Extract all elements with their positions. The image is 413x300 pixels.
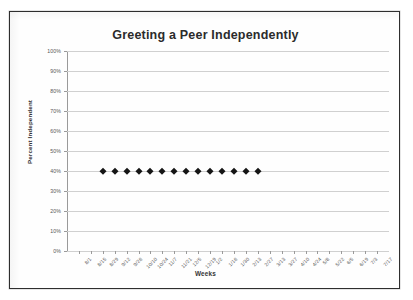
chart-title: Greeting a Peer Independently xyxy=(10,28,401,42)
x-tick-label: 8/15 xyxy=(96,256,107,267)
y-tick-mark xyxy=(64,71,67,72)
x-tick-mark xyxy=(294,251,295,254)
x-tick-mark xyxy=(234,251,235,254)
x-tick-label: 4/24 xyxy=(310,256,321,267)
x-tick-mark xyxy=(162,251,163,254)
x-tick-mark xyxy=(210,251,211,254)
x-tick-mark xyxy=(306,251,307,254)
y-tick-label: 100% xyxy=(47,48,61,54)
x-tick-mark xyxy=(198,251,199,254)
x-tick-label: 1/2 xyxy=(214,256,223,265)
gridline xyxy=(67,111,389,112)
x-tick-mark xyxy=(115,251,116,254)
y-tick-mark xyxy=(64,131,67,132)
y-axis-title: Percent Independent xyxy=(26,100,33,164)
y-tick-label: 40% xyxy=(50,168,61,174)
y-tick-mark xyxy=(64,111,67,112)
x-tick-mark xyxy=(103,251,104,254)
y-tick-mark xyxy=(64,251,67,252)
x-tick-label: 1/16 xyxy=(227,256,238,267)
plot-area: 0%10%20%30%40%50%60%70%80%90%100% 8/18/1… xyxy=(67,51,389,251)
y-tick-label: 50% xyxy=(50,148,61,154)
x-tick-label: 2/27 xyxy=(263,256,274,267)
gridline xyxy=(67,51,389,52)
x-tick-label: 6/19 xyxy=(358,256,369,267)
x-tick-mark xyxy=(365,251,366,254)
gridline xyxy=(67,91,389,92)
y-tick-mark xyxy=(64,171,67,172)
y-tick-label: 80% xyxy=(50,88,61,94)
data-point-marker xyxy=(195,168,201,174)
y-tick-label: 20% xyxy=(50,208,61,214)
x-tick-mark xyxy=(222,251,223,254)
data-point-marker xyxy=(147,168,153,174)
x-tick-mark xyxy=(353,251,354,254)
y-tick-mark xyxy=(64,91,67,92)
y-tick-mark xyxy=(64,151,67,152)
y-tick-label: 90% xyxy=(50,68,61,74)
x-tick-label: 7/3 xyxy=(369,256,378,265)
data-point-marker xyxy=(219,168,225,174)
chart-frame: Greeting a Peer Independently Percent In… xyxy=(9,11,400,289)
x-tick-label: 12/5 xyxy=(191,256,202,267)
x-tick-mark xyxy=(246,251,247,254)
data-point-marker xyxy=(159,168,165,174)
y-tick-mark xyxy=(64,191,67,192)
x-tick-label: 5/22 xyxy=(334,256,345,267)
data-point-marker xyxy=(255,168,261,174)
x-tick-label: 8/29 xyxy=(108,256,119,267)
gridline xyxy=(67,231,389,232)
x-axis-title: Weeks xyxy=(10,270,401,277)
data-point-marker xyxy=(171,168,177,174)
gridline xyxy=(67,191,389,192)
x-tick-mark xyxy=(91,251,92,254)
x-tick-mark xyxy=(79,251,80,254)
data-point-marker xyxy=(135,168,141,174)
x-tick-mark xyxy=(186,251,187,254)
x-tick-label: 1/30 xyxy=(239,256,250,267)
data-point-marker xyxy=(100,168,106,174)
data-point-marker xyxy=(207,168,213,174)
x-tick-label: 8/1 xyxy=(83,256,92,265)
y-tick-label: 60% xyxy=(50,128,61,134)
data-point-marker xyxy=(243,168,249,174)
x-tick-mark xyxy=(270,251,271,254)
x-tick-label: 11/7 xyxy=(167,256,178,267)
data-point-marker xyxy=(111,168,117,174)
y-tick-mark xyxy=(64,211,67,212)
x-tick-mark xyxy=(139,251,140,254)
x-tick-mark xyxy=(258,251,259,254)
x-tick-label: 2/13 xyxy=(251,256,262,267)
gridline xyxy=(67,151,389,152)
y-tick-label: 30% xyxy=(50,188,61,194)
x-tick-label: 9/12 xyxy=(120,256,131,267)
y-tick-label: 10% xyxy=(50,228,61,234)
x-tick-mark xyxy=(341,251,342,254)
x-tick-mark xyxy=(174,251,175,254)
y-tick-label: 0% xyxy=(53,248,61,254)
x-tick-label: 7/17 xyxy=(382,256,393,267)
data-point-marker xyxy=(183,168,189,174)
y-tick-label: 70% xyxy=(50,108,61,114)
x-tick-label: 9/26 xyxy=(132,256,143,267)
y-tick-mark xyxy=(64,51,67,52)
x-tick-label: 10/10 xyxy=(144,256,157,269)
x-tick-label: 4/10 xyxy=(299,256,310,267)
x-tick-label: 5/8 xyxy=(322,256,331,265)
x-tick-label: 6/5 xyxy=(345,256,354,265)
data-point-marker xyxy=(231,168,237,174)
gridline xyxy=(67,211,389,212)
gridline xyxy=(67,71,389,72)
y-tick-mark xyxy=(64,231,67,232)
gridline xyxy=(67,131,389,132)
x-tick-mark xyxy=(377,251,378,254)
x-tick-mark xyxy=(127,251,128,254)
x-tick-label: 3/13 xyxy=(275,256,286,267)
data-point-marker xyxy=(123,168,129,174)
x-tick-mark xyxy=(317,251,318,254)
x-tick-label: 3/27 xyxy=(287,256,298,267)
x-tick-mark xyxy=(329,251,330,254)
x-tick-mark xyxy=(150,251,151,254)
x-tick-mark xyxy=(282,251,283,254)
